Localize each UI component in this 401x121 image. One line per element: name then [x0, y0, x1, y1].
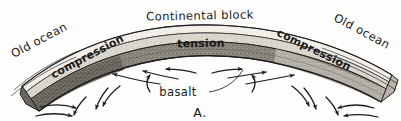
arrow-right-descend-1 — [292, 86, 309, 106]
arrow-right-return-1 — [338, 105, 374, 108]
figure-caption: A. — [193, 105, 206, 120]
figure-canvas: Continental block Old ocean Old ocean co… — [0, 0, 401, 121]
arrow-left-return-1 — [40, 105, 76, 108]
geology-figure: Continental block Old ocean Old ocean co… — [0, 0, 401, 121]
basalt-leader-line — [209, 70, 243, 92]
arrow-left-descend-3 — [74, 97, 86, 115]
label-continental-block: Continental block — [146, 7, 254, 23]
arrow-crest-left-1 — [166, 69, 196, 73]
arrow-crest-right-2 — [228, 72, 266, 78]
arrow-left-3 — [113, 74, 160, 84]
arrow-right-descend-2 — [304, 88, 316, 109]
arrow-right-hook — [252, 75, 255, 92]
arrow-right-return-2 — [344, 115, 378, 117]
arrow-left-hook — [147, 75, 150, 92]
label-old-ocean-left: Old ocean — [8, 19, 69, 60]
label-old-ocean-right: Old ocean — [332, 10, 393, 51]
arrow-left-descend-1 — [103, 86, 120, 106]
arrow-crest-right-1 — [212, 69, 242, 73]
arrow-left-descend-2 — [96, 88, 108, 109]
label-basalt: basalt — [159, 85, 197, 99]
label-tension: tension — [177, 37, 225, 51]
arrow-left-return-2 — [36, 114, 72, 116]
arrow-right-descend-3 — [326, 97, 338, 115]
